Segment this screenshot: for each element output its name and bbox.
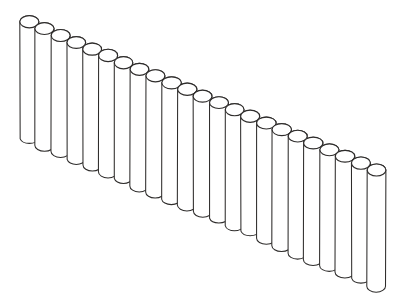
cylinder-top-ellipse-12 (193, 90, 212, 102)
cylinder-top-ellipse-9 (146, 70, 165, 82)
drawing-canvas (0, 0, 407, 301)
cylinder-top-ellipse-23 (367, 164, 386, 176)
cylinder-top-ellipse-4 (67, 37, 86, 49)
cylinder-top-ellipse-2 (35, 23, 54, 35)
cylinder-top-ellipse-13 (210, 97, 229, 109)
cylinder-body-23 (367, 164, 386, 292)
cylinder-top-ellipse-19 (304, 137, 323, 149)
cylinder-top-ellipse-3 (51, 30, 70, 42)
cylinder-row-illustration (0, 0, 407, 301)
cylinder-23 (367, 164, 386, 292)
cylinder-top-ellipse-7 (114, 57, 133, 69)
